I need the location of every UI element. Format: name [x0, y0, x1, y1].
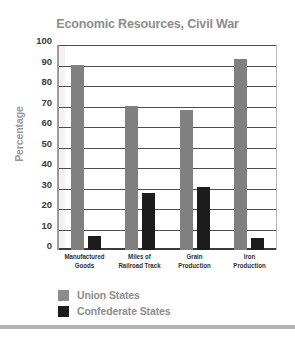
bottom-divider [0, 325, 295, 329]
x-tick-label-line: Goods [60, 262, 110, 271]
bar-confederate-2 [197, 187, 210, 250]
legend-item-confederate: Confederate States [58, 303, 268, 319]
bar-confederate-0 [88, 236, 101, 250]
bar-group [169, 45, 221, 250]
x-tick-label: Iron Production [225, 253, 275, 279]
legend-swatch-icon [58, 290, 69, 301]
bar-union-0 [71, 65, 84, 250]
y-tick-label: 70 [18, 96, 52, 107]
x-tick-label-line: Production [170, 262, 220, 271]
plot-area [57, 45, 277, 250]
chart-legend: Union States Confederate States [58, 287, 268, 319]
x-tick-label-line: Miles of [115, 253, 165, 262]
chart-figure: Economic Resources, Civil War Percentage… [0, 0, 295, 338]
bar-union-1 [125, 106, 138, 250]
x-tick-label-line: Railroad Track [115, 262, 165, 271]
x-axis-tick-labels: Manufactured Goods Miles of Railroad Tra… [57, 253, 277, 279]
bar-group [114, 45, 166, 250]
legend-swatch-icon [58, 306, 69, 317]
bar-group [223, 45, 275, 250]
y-tick-label: 0 [18, 240, 52, 251]
y-tick-label: 100 [18, 35, 52, 46]
y-tick-label: 90 [18, 55, 52, 66]
x-tick-label-line: Grain [170, 253, 220, 262]
y-tick-label: 10 [18, 219, 52, 230]
bar-confederate-3 [251, 238, 264, 250]
y-tick-label: 30 [18, 178, 52, 189]
chart-title: Economic Resources, Civil War [10, 16, 284, 31]
y-tick-label: 60 [18, 117, 52, 128]
bar-union-3 [234, 59, 247, 250]
x-tick-label-line: Iron [225, 253, 275, 262]
bar-union-2 [180, 110, 193, 250]
y-axis-tick-labels: 100 90 80 70 60 50 40 30 20 10 0 [18, 40, 52, 250]
bar-confederate-1 [142, 193, 155, 250]
y-tick-label: 40 [18, 158, 52, 169]
legend-label: Union States [77, 289, 140, 301]
x-tick-label-line: Production [225, 262, 275, 271]
x-tick-label: Miles of Railroad Track [115, 253, 165, 279]
y-tick-label: 20 [18, 199, 52, 210]
x-tick-label-line: Manufactured [60, 253, 110, 262]
bars-layer [59, 45, 276, 250]
x-tick-label: Grain Production [170, 253, 220, 279]
legend-label: Confederate States [77, 305, 171, 317]
x-tick-label: Manufactured Goods [60, 253, 110, 279]
y-tick-label: 80 [18, 76, 52, 87]
y-tick-label: 50 [18, 137, 52, 148]
legend-item-union: Union States [58, 287, 268, 303]
bar-group [60, 45, 112, 250]
